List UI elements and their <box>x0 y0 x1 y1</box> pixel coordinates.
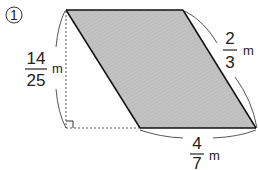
base-denominator: 7 <box>192 154 201 170</box>
base-arc-right <box>213 130 256 138</box>
height-denominator: 25 <box>27 71 46 90</box>
right-angle-mark <box>66 121 73 128</box>
base-unit: m <box>209 148 220 163</box>
base-numerator: 4 <box>192 134 201 153</box>
side-denominator: 3 <box>225 53 234 72</box>
side-label: 2 3 m <box>223 29 254 72</box>
problem-number-text: 1 <box>10 7 18 23</box>
height-label: 14 25 m <box>25 49 63 90</box>
base-arc-left <box>140 130 183 138</box>
problem-number: 1 <box>6 7 22 23</box>
parallelogram-figure: 1 14 25 m 2 3 m 4 7 m <box>0 0 258 170</box>
side-unit: m <box>243 43 254 58</box>
height-arc-top <box>56 11 65 47</box>
base-label: 4 7 m <box>190 134 220 170</box>
height-numerator: 14 <box>27 49 46 68</box>
side-numerator: 2 <box>225 29 234 48</box>
height-arc-bottom <box>56 89 66 128</box>
height-unit: m <box>52 61 63 76</box>
